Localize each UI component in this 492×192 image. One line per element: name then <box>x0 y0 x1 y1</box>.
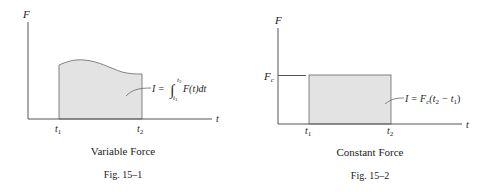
tick-t1: t1 <box>55 123 62 136</box>
impulse-diagrams: F t t1 t2 I = ∫ t2 t1 F(t)dt F t Fc t1 t… <box>0 0 492 192</box>
figure-title-variable-force: Variable Force <box>63 145 183 157</box>
y-axis-label: F <box>22 8 30 20</box>
impulse-area-constant <box>309 75 391 124</box>
x-axis-label: t <box>466 119 469 130</box>
tick-t2: t2 <box>387 125 394 138</box>
svg-text:t1: t1 <box>173 94 178 102</box>
x-axis-label: t <box>216 113 219 124</box>
svg-text:t2: t2 <box>177 76 182 84</box>
figure-caption-15-1: Fig. 15–1 <box>63 169 183 180</box>
figure-caption-15-2: Fig. 15–2 <box>310 170 430 181</box>
figure-title-constant-force: Constant Force <box>310 146 430 158</box>
figure-variable-force: F t t1 t2 I = ∫ t2 t1 F(t)dt <box>22 8 219 136</box>
impulse-constant-formula: I = Fc(t2 − t1) <box>404 93 460 106</box>
tick-t2: t2 <box>137 123 144 136</box>
svg-text:F(t)dt: F(t)dt <box>182 83 207 95</box>
y-axis-label: F <box>274 14 282 26</box>
impulse-integral-formula: I = ∫ t2 t1 F(t)dt <box>151 76 207 102</box>
tick-t1: t1 <box>305 125 312 138</box>
figure-constant-force: F t Fc t1 t2 I = Fc(t2 − t1) <box>263 14 469 138</box>
impulse-area-variable <box>59 60 142 119</box>
svg-text:I =: I = <box>151 83 165 94</box>
fc-label: Fc <box>263 70 275 84</box>
